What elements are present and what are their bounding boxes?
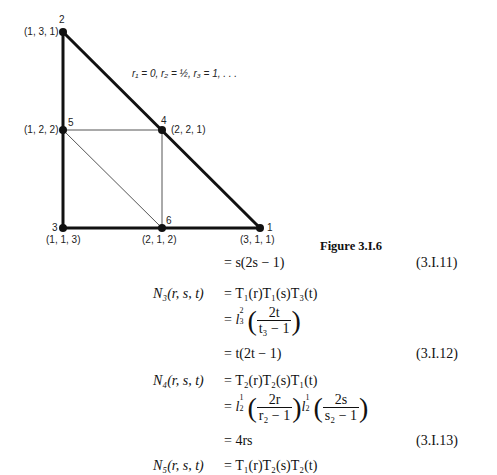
- eq-number-3i11: (3.I.11): [416, 255, 457, 271]
- node-1-id: 1: [267, 222, 273, 233]
- n3-lhs: N₃(r, s, t): [153, 286, 204, 302]
- n3-lagrange: = l23(2tt₃ − 1): [224, 305, 301, 336]
- node-5: [59, 126, 67, 134]
- figure-caption: Figure 3.I.6: [320, 239, 382, 254]
- node-4-coords: (2, 2, 1): [171, 124, 205, 135]
- n4-product: = T₂(r)T₂(s)T₁(t): [224, 373, 317, 389]
- n3-product: = T₁(r)T₁(s)T₃(t): [224, 286, 317, 302]
- n3-frac-den: t₃ − 1: [257, 321, 292, 336]
- node-3: [59, 224, 67, 232]
- n3-frac-num: 2t: [257, 305, 292, 321]
- node-6-coords: (2, 1, 2): [142, 234, 176, 245]
- eq-number-3i13: (3.I.13): [416, 433, 458, 449]
- node-5-coords: (1, 2, 2): [24, 124, 58, 135]
- node-2: [59, 28, 67, 36]
- eq-3i11: = s(2s − 1): [224, 255, 285, 271]
- node-5-id: 5: [68, 117, 74, 128]
- n4-frac2-den: s₂ − 1: [323, 408, 359, 423]
- node-2-coords: (1, 3, 1): [24, 26, 58, 37]
- n4-frac1-den: r₂ − 1: [257, 408, 292, 423]
- n4-frac2-num: 2s: [323, 392, 359, 408]
- n4-frac1-num: 2r: [257, 392, 292, 408]
- spacing-annotation: r₁ = 0, r₂ = ½, r₃ = 1, . . .: [132, 68, 237, 79]
- node-6-id: 6: [166, 215, 172, 226]
- node-3-id: 3: [52, 222, 58, 233]
- n4-lagrange: = l12(2rr₂ − 1)l12(2ss₂ − 1): [224, 392, 368, 423]
- node-4: [158, 126, 166, 134]
- n4-lhs: N₄(r, s, t): [153, 373, 204, 389]
- n4-result: = 4rs: [224, 433, 253, 449]
- eq-number-3i12: (3.I.12): [416, 346, 458, 362]
- triangle-mesh-diagram: [0, 0, 497, 250]
- node-1: [256, 224, 264, 232]
- n5-product: = T₁(r)T₂(s)T₂(t): [224, 458, 317, 474]
- triangle-element-figure: 2 (1, 3, 1) r₁ = 0, r₂ = ½, r₃ = 1, . . …: [0, 0, 497, 250]
- node-1-coords: (3, 1, 1): [240, 234, 274, 245]
- node-4-id: 4: [161, 115, 167, 126]
- node-3-coords: (1, 1, 3): [46, 234, 80, 245]
- n5-lhs: N₅(r, s, t): [153, 458, 204, 474]
- node-2-id: 2: [59, 14, 65, 25]
- n3-result: = t(2t − 1): [224, 346, 281, 362]
- node-6: [158, 224, 166, 232]
